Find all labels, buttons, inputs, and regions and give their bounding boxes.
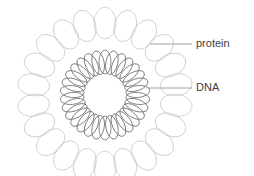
- protein-subunit: [31, 123, 70, 161]
- protein-subunit: [48, 136, 84, 175]
- dna-coil-segment: [123, 96, 150, 115]
- protein-subunit: [70, 7, 100, 44]
- dna-coil-segment: [123, 75, 150, 94]
- protein-subunit: [94, 7, 116, 39]
- nucleosome-diagram: proteinDNA: [0, 0, 254, 176]
- protein-subunit: [110, 7, 140, 44]
- protein-subunit: [126, 136, 162, 175]
- protein-subunit: [140, 123, 179, 161]
- dna-coil-segment: [103, 114, 120, 140]
- dna-coil-segment: [90, 114, 107, 140]
- protein-subunit: [94, 151, 116, 176]
- label-protein: protein: [196, 37, 230, 49]
- protein-subunit: [151, 48, 189, 81]
- diagram-canvas: proteinDNA: [0, 0, 254, 176]
- protein-subunit: [20, 108, 58, 141]
- dna-coil-segment: [103, 50, 120, 76]
- protein-shell-ring: [16, 7, 193, 176]
- dna-coil-segment: [90, 50, 107, 76]
- dna-coil-segment: [60, 75, 87, 94]
- dna-coil-ring: [60, 50, 151, 141]
- protein-subunit: [151, 108, 189, 141]
- protein-subunit: [126, 15, 162, 54]
- protein-subunit: [70, 146, 100, 176]
- label-dna: DNA: [196, 81, 220, 93]
- protein-subunit: [31, 29, 70, 67]
- protein-subunit: [140, 29, 179, 67]
- protein-subunit: [110, 146, 140, 176]
- dna-coil-segment: [60, 96, 87, 115]
- protein-subunit: [20, 48, 58, 81]
- protein-subunit: [48, 15, 84, 54]
